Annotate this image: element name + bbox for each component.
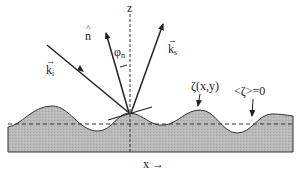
surface-height-label: ζ(x,y) <box>191 80 219 92</box>
scattered-label: → ks <box>168 43 177 57</box>
incident-subscript: i <box>52 69 54 78</box>
z-axis-label: z <box>127 2 132 14</box>
angle-subscript: n <box>121 51 125 60</box>
diagram-canvas: z ^ n φn → ki → ks ζ(x,y) <ζ>=0 x → <box>0 0 302 177</box>
x-axis-label: x → <box>143 158 164 170</box>
scattered-vector <box>131 24 163 113</box>
mean-plane-label: <ζ>=0 <box>234 85 265 97</box>
angle-tick <box>120 65 127 67</box>
rough-surface <box>8 106 293 152</box>
scattered-vector-arrow: → <box>168 36 177 45</box>
angle-symbol: φ <box>114 45 121 59</box>
incident-vector-arrow: → <box>46 57 55 66</box>
mean-pointer <box>252 99 253 116</box>
angle-label: φn <box>114 46 125 60</box>
incident-label: → ki <box>46 64 54 78</box>
scattered-subscript: s <box>174 48 177 57</box>
normal-label: ^ n <box>85 30 91 42</box>
zeta-pointer <box>198 94 200 106</box>
normal-hat: ^ <box>86 24 90 33</box>
